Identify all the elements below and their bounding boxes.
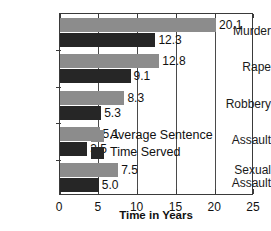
bar-time-served-2 [60, 106, 101, 120]
bar-average-sentence-2 [60, 91, 124, 105]
category-label-1: Rape [215, 61, 271, 74]
category-label-2: Robbery [215, 98, 271, 111]
bar-time-served-1 [60, 69, 131, 83]
bar-value-label: 12.8 [162, 55, 185, 67]
x-tick-top-25 [253, 14, 254, 18]
bar-time-served-0 [60, 33, 155, 47]
bar-time-served-4 [60, 178, 99, 192]
legend-label-average-sentence: Average Sentence [110, 129, 213, 142]
bar-average-sentence-4 [60, 163, 118, 177]
category-label-4: Sexual Assault [215, 164, 271, 190]
category-label-3: Assault [215, 134, 271, 147]
legend-label-time-served: Time Served [110, 146, 180, 159]
bar-value-label: 5.3 [104, 107, 121, 119]
category-label-0: Murder [215, 25, 271, 38]
bar-value-label: 12.3 [158, 34, 181, 46]
category-tick-4 [56, 160, 61, 161]
legend-item-time-served: Time Served [91, 144, 213, 161]
bar-value-label: 9.1 [134, 70, 151, 82]
category-tick-2 [56, 87, 61, 88]
chart-legend: Average Sentence Time Served [91, 127, 213, 161]
bar-value-label: 7.5 [121, 164, 138, 176]
x-axis-title: Time in Years [59, 209, 253, 221]
legend-swatch-average-sentence [91, 130, 104, 142]
bar-chart-figure: 20.112.312.89.18.35.35.13.57.55.0 Murder… [0, 0, 271, 231]
x-tick-bottom-10 [137, 189, 138, 194]
bar-value-label: 8.3 [127, 92, 144, 104]
category-tick-1 [56, 50, 61, 51]
bar-average-sentence-0 [60, 18, 216, 32]
bar-time-served-3 [60, 142, 87, 156]
bar-value-label: 5.0 [102, 179, 119, 191]
legend-item-average-sentence: Average Sentence [91, 127, 213, 144]
x-tick-bottom-15 [176, 189, 177, 194]
legend-swatch-time-served [91, 147, 104, 159]
category-tick-3 [56, 123, 61, 124]
bar-average-sentence-1 [60, 54, 159, 68]
